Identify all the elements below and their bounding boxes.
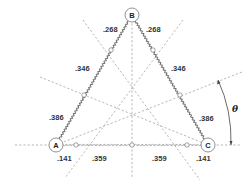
node-c: C <box>201 138 215 152</box>
marker-ac-right <box>185 143 189 147</box>
spring-triangle-diagram: A B C .268 .268 .346 .346 .386 .386 .141… <box>0 0 251 186</box>
node-c-label: C <box>205 141 211 150</box>
label-ab-upper: .268 <box>103 25 118 34</box>
marker-ab-upper <box>109 48 113 52</box>
marker-bc-lower <box>178 93 182 97</box>
label-bc-upper: .268 <box>146 25 161 34</box>
spring-ab <box>59 21 128 139</box>
label-bc-middle: .346 <box>171 64 186 73</box>
label-ac-left-end: .141 <box>57 154 72 163</box>
median-from-a <box>56 72 242 145</box>
angle-theta-label: θ <box>232 104 238 114</box>
label-ab-middle: .346 <box>75 64 90 73</box>
node-a: A <box>49 138 63 152</box>
label-ac-right-end: .141 <box>196 154 211 163</box>
marker-ab-lower <box>82 93 86 97</box>
node-b: B <box>125 8 139 22</box>
marker-ac-left <box>74 143 78 147</box>
marker-bc-upper <box>151 48 155 52</box>
arrow-head-bottom-icon <box>230 141 233 145</box>
angle-indicator: θ <box>217 80 238 145</box>
label-ac-left-mid: .359 <box>92 154 107 163</box>
dimension-labels: .268 .268 .346 .346 .386 .386 .141 .359 … <box>49 25 214 163</box>
node-a-label: A <box>53 141 59 150</box>
label-bc-lower: .386 <box>199 114 214 123</box>
median-from-c <box>40 77 208 145</box>
node-b-label: B <box>129 11 135 20</box>
angle-arc <box>218 80 231 145</box>
marker-ac-center <box>130 143 134 147</box>
label-ac-right-mid: .359 <box>152 154 167 163</box>
spring-bc <box>135 21 204 139</box>
label-ab-lower: .386 <box>49 113 64 122</box>
